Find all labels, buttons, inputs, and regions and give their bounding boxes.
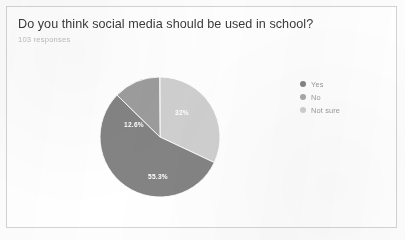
legend-item-no[interactable]: No xyxy=(300,91,390,103)
legend-item-yes[interactable]: Yes xyxy=(300,78,390,90)
legend-dot-icon xyxy=(300,81,306,87)
screenshot-root: Do you think social media should be used… xyxy=(0,0,405,240)
legend-dot-icon xyxy=(300,107,306,113)
form-response-card: Do you think social media should be used… xyxy=(6,6,397,228)
legend-label-no: No xyxy=(311,93,321,102)
chart-legend: Yes No Not sure xyxy=(300,78,390,117)
pie-chart-svg: 55.3%32%12.6% xyxy=(98,75,222,199)
legend-item-not-sure[interactable]: Not sure xyxy=(300,104,390,116)
pie-chart: 55.3%32%12.6% xyxy=(98,75,222,199)
pie-value-label-yes: 55.3% xyxy=(148,173,168,180)
chart-area: 55.3%32%12.6% Yes No Not sure xyxy=(7,7,398,229)
pie-value-label-no: 32% xyxy=(175,109,189,116)
pie-value-label-not-sure: 12.6% xyxy=(124,121,144,128)
legend-label-yes: Yes xyxy=(311,80,324,89)
legend-label-not-sure: Not sure xyxy=(311,106,340,115)
legend-dot-icon xyxy=(300,94,306,100)
